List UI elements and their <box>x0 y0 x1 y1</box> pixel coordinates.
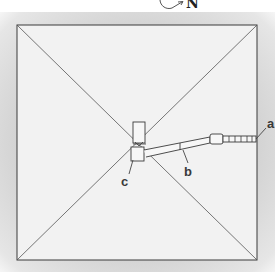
label-a: a <box>267 116 275 131</box>
burial-chamber <box>131 147 144 161</box>
north-arrow-icon: N <box>160 0 199 11</box>
upper-chamber <box>133 122 145 143</box>
entrance-passage-a <box>223 136 256 142</box>
label-c: c <box>121 174 128 189</box>
label-b: b <box>184 164 192 179</box>
antechamber <box>210 134 223 144</box>
pyramid-plan-diagram: N a b c <box>0 0 275 272</box>
north-label: N <box>186 0 199 11</box>
